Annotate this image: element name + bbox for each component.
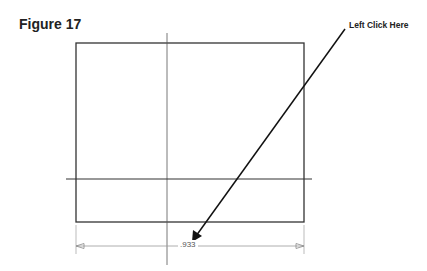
callout-label: Left Click Here bbox=[349, 20, 409, 30]
dimension-value[interactable]: .933 bbox=[178, 240, 198, 249]
cad-drawing bbox=[0, 0, 427, 271]
callout-arrow-icon bbox=[192, 29, 345, 242]
